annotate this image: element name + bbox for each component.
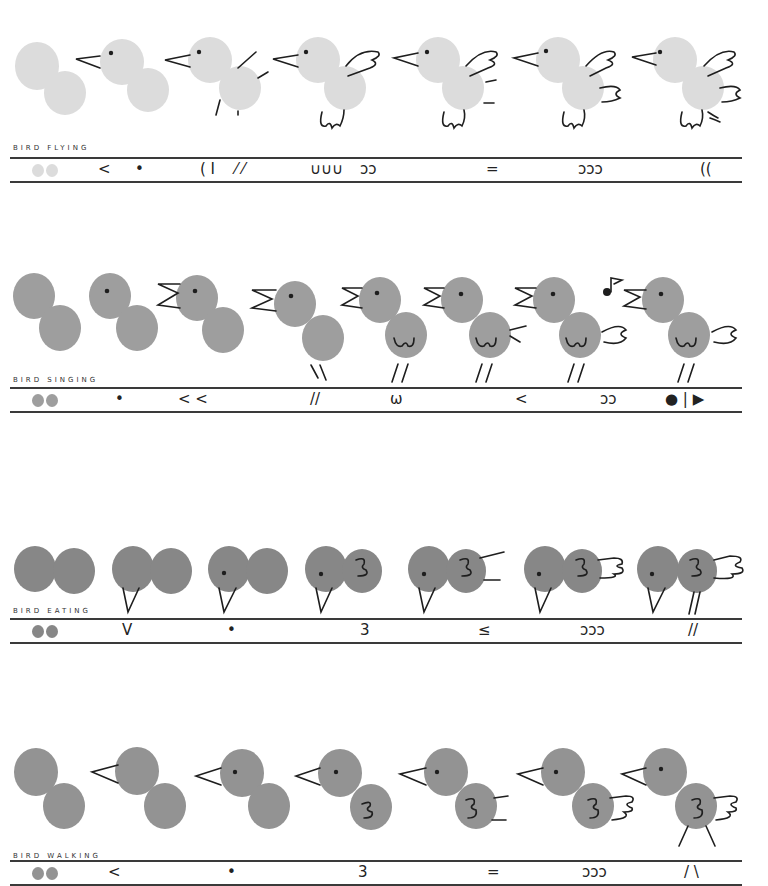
stroke-open-beak: < <	[178, 390, 208, 408]
section-bird-walking: BIRD WALKING < • 3 = ↄↄↄ / \	[0, 740, 768, 885]
stroke-motion: ((	[700, 160, 712, 178]
stroke-beak: <	[108, 863, 121, 881]
stroke-feet: ∪∪∪	[310, 160, 343, 178]
stroke-wing-tip: ↄↄ	[360, 160, 376, 178]
stroke-guide-strip: < • 3 = ↄↄↄ / \	[10, 860, 742, 886]
section-label: BIRD FLYING	[13, 144, 89, 152]
stroke-tail: ↄↄↄ	[582, 863, 607, 881]
thumbprint-dot	[46, 164, 58, 177]
section-bird-flying: BIRD FLYING < • ( I ⁄ ⁄ ∪∪∪ ↄↄ = ↄↄↄ ((	[0, 0, 768, 190]
stroke-legs: //	[688, 621, 698, 639]
stroke-eye: •	[135, 160, 144, 178]
stroke-eye: •	[227, 621, 236, 639]
thumbprint-dot	[32, 394, 44, 407]
stroke-legs: / \	[684, 863, 699, 881]
section-bird-eating: BIRD EATING V • 3 ≤ ↄↄↄ //	[0, 520, 768, 645]
thumbprint-dot	[32, 164, 44, 177]
section-label: BIRD WALKING	[13, 852, 101, 860]
stroke-eye: •	[115, 390, 124, 408]
stroke-tail-lines: =	[487, 863, 500, 881]
stroke-wing: ω	[390, 390, 403, 408]
section-label: BIRD EATING	[13, 607, 91, 615]
stroke-tail-start: <	[515, 390, 528, 408]
stroke-tail: ↄↄↄ	[580, 621, 605, 639]
bird-flying-sequence-illustration	[0, 0, 768, 140]
stroke-wing-curve: ⁄ ⁄	[235, 160, 245, 178]
stroke-lower-wing: ↄↄↄ	[578, 160, 603, 178]
bird-singing-sequence-illustration	[0, 260, 768, 385]
stroke-beak: V	[122, 621, 132, 639]
stroke-beak: <	[98, 160, 111, 178]
thumbprint-swatch	[32, 624, 60, 642]
thumbprint-dot	[32, 867, 44, 880]
thumbprint-dot	[46, 394, 58, 407]
bird-eating-sequence-illustration	[0, 520, 768, 620]
stroke-music-note: ● | ▶	[665, 390, 704, 408]
stroke-guide-strip: • < < // ω < ↄↄ ● | ▶	[10, 387, 742, 413]
thumbprint-swatch	[32, 866, 60, 884]
thumbprint-dot	[46, 867, 58, 880]
section-label: BIRD SINGING	[13, 376, 98, 384]
stroke-tail: ↄↄ	[600, 390, 616, 408]
section-bird-singing: BIRD SINGING • < < // ω < ↄↄ ● | ▶	[0, 260, 768, 415]
stroke-wing: 3	[358, 863, 368, 881]
stroke-eye: •	[227, 863, 236, 881]
stroke-guide-strip: < • ( I ⁄ ⁄ ∪∪∪ ↄↄ = ↄↄↄ ((	[10, 157, 742, 183]
bird-walking-sequence-illustration	[0, 740, 768, 850]
music-note-icon	[603, 278, 622, 296]
thumbprint-dot	[46, 625, 58, 638]
thumbprint-swatch	[32, 393, 60, 411]
stroke-tail-lines: ≤	[478, 621, 491, 639]
stroke-legs: //	[310, 390, 320, 408]
thumbprint-dot	[32, 625, 44, 638]
stroke-wing-start: ( I	[200, 160, 215, 178]
stroke-tail: =	[486, 160, 499, 178]
stroke-guide-strip: V • 3 ≤ ↄↄↄ //	[10, 618, 742, 644]
thumbprint-swatch	[32, 163, 60, 181]
stroke-wing: 3	[360, 621, 370, 639]
